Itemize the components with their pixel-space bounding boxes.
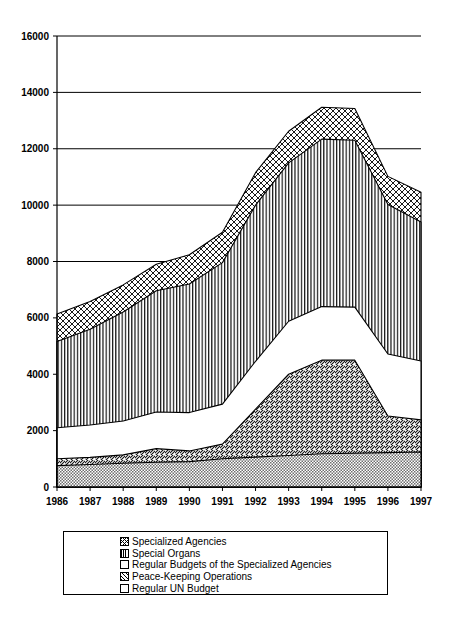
x-tick-label: 1987 [79,496,102,507]
x-tick-label: 1996 [377,496,400,507]
legend-item-regular-un-budget: Regular UN Budget [64,582,387,594]
dotted-grey-swatch-icon [120,584,129,593]
chart-legend: Specialized Agencies Special Organs Regu… [63,531,388,595]
legend-item-regular-budgets: Regular Budgets of the Specialized Agenc… [64,559,387,571]
legend-label: Regular Budgets of the Specialized Agenc… [132,559,332,570]
x-tick-label: 1994 [311,496,334,507]
y-tick-label: 0 [43,482,49,493]
legend-label: Specialized Agencies [132,536,227,547]
y-tick-label: 16000 [21,31,49,42]
cross-hatch-swatch-icon [120,537,129,546]
legend-label: Peace-Keeping Operations [132,571,252,582]
y-tick-label: 6000 [27,312,50,323]
x-tick-label: 1990 [178,496,201,507]
legend-item-peace-keeping: Peace-Keeping Operations [64,571,387,583]
diagonal-hatch-swatch-icon [120,572,129,581]
y-tick-label: 8000 [27,256,50,267]
legend-label: Regular UN Budget [132,583,219,594]
x-tick-label: 1988 [112,496,135,507]
x-tick-label: 1989 [145,496,168,507]
y-axis-ticks: 0200040006000800010000120001400016000 [21,31,57,493]
white-swatch-icon [120,560,129,569]
x-axis-ticks: 1986198719881989199019911992199319941995… [46,487,433,507]
legend-item-specialized-agencies: Specialized Agencies [64,536,387,548]
y-tick-label: 10000 [21,200,49,211]
x-tick-label: 1995 [344,496,367,507]
x-tick-label: 1991 [211,496,234,507]
vertical-lines-swatch-icon [120,549,129,558]
y-tick-label: 2000 [27,425,50,436]
legend-item-special-organs: Special Organs [64,548,387,560]
x-tick-label: 1993 [278,496,301,507]
y-tick-label: 14000 [21,87,49,98]
x-tick-label: 1997 [410,496,433,507]
chart-figure: 0200040006000800010000120001400016000 19… [0,0,455,633]
y-tick-label: 12000 [21,143,49,154]
y-tick-label: 4000 [27,369,50,380]
x-tick-label: 1992 [244,496,267,507]
legend-label: Special Organs [132,548,200,559]
x-tick-label: 1986 [46,496,69,507]
